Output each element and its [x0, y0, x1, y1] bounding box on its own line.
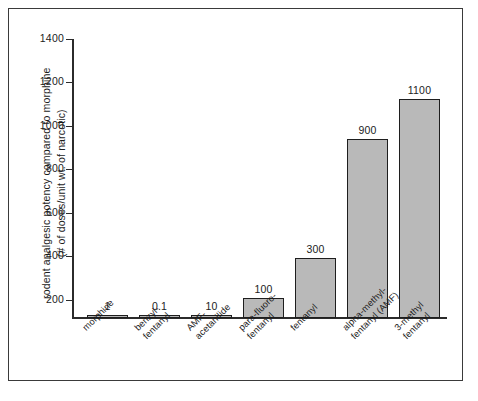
bar-3-methyl-fentanyl[interactable]: [399, 99, 440, 318]
y-tick-mark: [66, 300, 74, 301]
bar-value-label: 100: [243, 284, 284, 295]
y-tick-label: 1000: [24, 120, 64, 131]
y-tick-mark: [66, 256, 74, 257]
y-tick-mark: [66, 169, 74, 170]
y-tick-label-wrap: 1200: [18, 76, 64, 88]
y-axis-line: [72, 39, 74, 319]
bar-value-label: 1100: [399, 85, 440, 96]
y-tick-label-wrap: 600: [18, 207, 64, 219]
y-tick-label: 1200: [24, 76, 64, 87]
y-tick-label-wrap: 1000: [18, 120, 64, 132]
y-tick-mark: [66, 39, 74, 40]
y-tick-label: 1400: [24, 33, 64, 44]
y-tick-label-wrap: 800: [18, 163, 64, 175]
y-tick-label-wrap: 200: [18, 294, 64, 306]
y-tick-mark: [66, 213, 74, 214]
bar-chart-plot-area: rodent analgesic potency compared to mor…: [0, 0, 478, 401]
y-tick-label-wrap: 1400: [18, 33, 64, 45]
y-tick-mark: [66, 126, 74, 127]
y-tick-label: 400: [24, 250, 64, 261]
y-tick-label: 800: [24, 163, 64, 174]
bar-value-label: 900: [347, 125, 388, 136]
y-tick-label-wrap: 400: [18, 250, 64, 262]
y-tick-mark: [66, 82, 74, 83]
bar-value-label: 300: [295, 244, 336, 255]
y-tick-label: 600: [24, 207, 64, 218]
y-tick-label: 200: [24, 294, 64, 305]
